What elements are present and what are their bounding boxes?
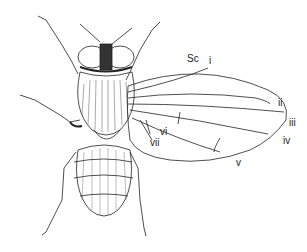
- label-sc: Sc: [187, 54, 199, 64]
- fly-illustration: [0, 0, 307, 252]
- label-vi: vi: [160, 127, 167, 137]
- hind-leg-right: [130, 152, 146, 236]
- middle-leg-left: [20, 95, 80, 122]
- label-i: i: [209, 56, 211, 66]
- label-v: v: [236, 158, 241, 168]
- label-iv: iv: [283, 136, 290, 146]
- label-ii: ii: [278, 98, 282, 108]
- label-vii: vii: [150, 138, 159, 148]
- thorax: [78, 72, 135, 135]
- front-leg-left: [38, 16, 78, 74]
- front-leg-right: [126, 22, 160, 80]
- abdomen: [77, 145, 132, 216]
- hind-leg-left: [42, 152, 76, 235]
- label-iii: iii: [289, 118, 296, 128]
